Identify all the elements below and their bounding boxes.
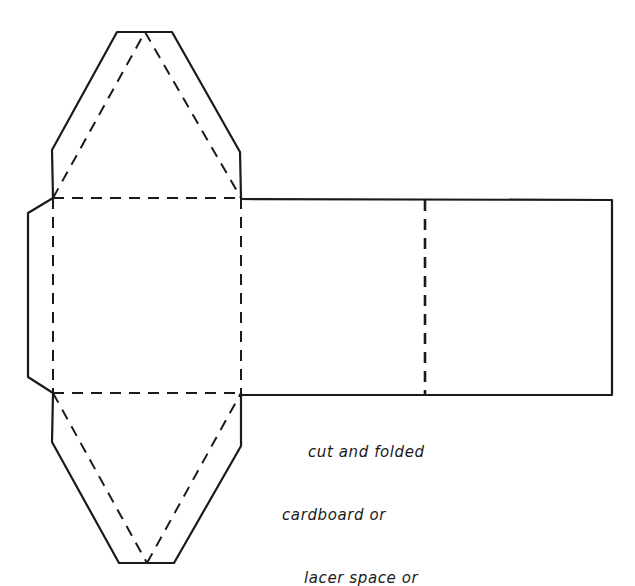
caption-line-1: cut and folded (278, 442, 426, 463)
construction-note: cut and folded cardboard or lacer space … (278, 400, 426, 586)
bottom-face-fold-right (147, 393, 241, 563)
top-face-fold-right (145, 32, 241, 198)
left-tab-outline (28, 198, 53, 393)
top-face-fold-left (53, 32, 145, 198)
bottom-face-outline (52, 393, 241, 563)
top-face-outline (52, 32, 241, 198)
side-faces-outline (241, 199, 612, 395)
caption-line-2: cardboard or (278, 505, 426, 526)
bottom-face-fold-left (53, 393, 147, 563)
caption-line-3: lacer space or (278, 568, 426, 586)
